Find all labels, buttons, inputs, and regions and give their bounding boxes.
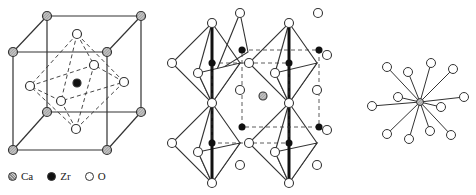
octahedron (172, 103, 240, 183)
legend-item-zr: Zr (47, 170, 70, 182)
legend: Ca Zr O (8, 170, 106, 182)
legend-label: Zr (60, 170, 70, 182)
legend-item-o: O (85, 170, 106, 182)
legend-label: O (98, 170, 106, 182)
octahedra-network-panel (168, 9, 332, 188)
o-atom-icon (85, 172, 94, 181)
perovskite-diagram (0, 0, 476, 195)
ca-atom-icon (8, 172, 17, 181)
legend-item-ca: Ca (8, 170, 33, 182)
zr-atom-icon (47, 172, 56, 181)
legend-label: Ca (21, 170, 33, 182)
unit-cell-panel (9, 12, 146, 155)
ca-coordination-panel (368, 59, 469, 144)
